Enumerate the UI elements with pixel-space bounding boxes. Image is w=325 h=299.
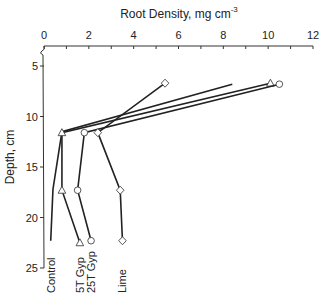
x-tick-label: 0 bbox=[41, 29, 47, 41]
y-tick-label: 25 bbox=[26, 262, 38, 274]
circle-marker bbox=[81, 129, 88, 136]
x-tick-label: 10 bbox=[262, 29, 274, 41]
series-label: Control bbox=[45, 258, 57, 293]
triangle-marker bbox=[76, 239, 84, 246]
triangle-marker bbox=[58, 186, 66, 193]
y-tick-label: 10 bbox=[26, 111, 38, 123]
diamond-marker bbox=[116, 186, 124, 194]
x-tick-label: 6 bbox=[175, 29, 181, 41]
x-tick-label: 4 bbox=[131, 29, 137, 41]
y-tick-label: 5 bbox=[32, 60, 38, 72]
y-axis-label: Depth, cm bbox=[3, 130, 17, 185]
circle-marker bbox=[88, 237, 95, 244]
series-label: 5T Gyp bbox=[74, 257, 86, 293]
x-tick-label: 2 bbox=[86, 29, 92, 41]
series-label: Lime bbox=[116, 269, 128, 293]
diamond-marker bbox=[119, 237, 127, 245]
x-axis-label: Root Density, mg cm-3 bbox=[120, 5, 238, 21]
series-line-5t-gyp bbox=[62, 83, 270, 243]
x-tick-label: 8 bbox=[220, 29, 226, 41]
series-label: 25T Gyp bbox=[85, 251, 97, 293]
series-line-lime bbox=[98, 83, 165, 241]
y-axis-line bbox=[41, 46, 45, 268]
series-line-control bbox=[51, 84, 233, 241]
circle-marker bbox=[276, 81, 283, 88]
circle-marker bbox=[74, 187, 81, 194]
x-tick-label: 12 bbox=[307, 29, 319, 41]
series-line-25t-gyp bbox=[78, 84, 280, 241]
y-tick-label: 20 bbox=[26, 212, 38, 224]
y-tick-label: 15 bbox=[26, 161, 38, 173]
root-density-chart: 024681012Root Density, mg cm-3510152025D… bbox=[0, 0, 325, 299]
